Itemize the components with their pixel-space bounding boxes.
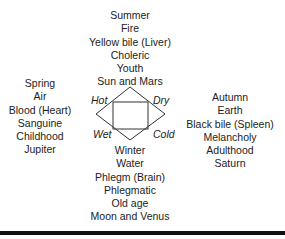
bottom-rule <box>0 231 285 235</box>
square-diamond-diagram <box>0 0 285 239</box>
quality-hot: Hot <box>91 94 107 106</box>
square-shape <box>113 102 148 129</box>
quality-cold: Cold <box>153 128 175 140</box>
quality-dry: Dry <box>153 94 169 106</box>
quality-wet: Wet <box>93 128 111 140</box>
